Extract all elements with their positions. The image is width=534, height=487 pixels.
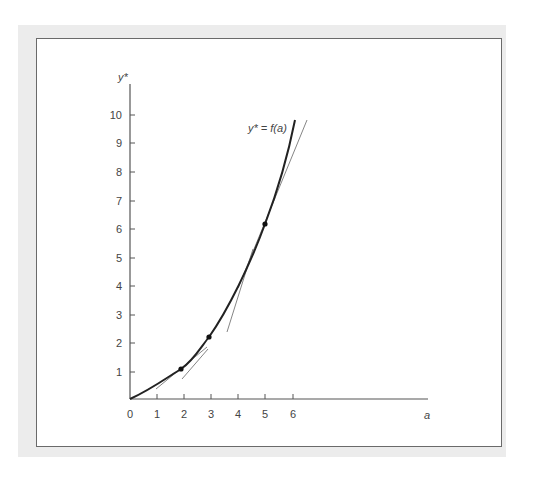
y-axis-label: y* [117, 71, 129, 83]
x-tick-label: 6 [290, 408, 296, 420]
y-tick-label: 6 [116, 223, 122, 235]
x-tick-labels: 0 1 2 3 4 5 6 [127, 408, 296, 420]
data-point [206, 334, 211, 339]
x-tick-label: 5 [262, 408, 268, 420]
y-tick-label: 3 [116, 309, 122, 321]
curve-f-of-a [130, 120, 295, 399]
x-ticks [157, 394, 293, 399]
x-tick-label: 2 [181, 408, 187, 420]
y-tick-label: 2 [116, 337, 122, 349]
marked-points [178, 221, 267, 371]
y-tick-labels: 1 2 3 4 5 6 7 8 9 10 [110, 109, 122, 378]
y-tick-label: 9 [116, 137, 122, 149]
y-ticks [130, 115, 135, 372]
y-tick-label: 10 [110, 109, 122, 121]
tangent-lines [156, 120, 307, 389]
y-tick-label: 5 [116, 252, 122, 264]
chart-canvas: 1 2 3 4 5 6 7 8 9 10 0 1 2 3 4 5 6 y* a [0, 0, 534, 487]
curve-annotation: y* = f(a) [247, 122, 287, 134]
data-point [178, 366, 183, 371]
y-tick-label: 7 [116, 195, 122, 207]
x-tick-label: 3 [208, 408, 214, 420]
y-tick-label: 4 [116, 280, 122, 292]
y-tick-label: 1 [116, 366, 122, 378]
x-axis-label: a [424, 409, 430, 421]
x-tick-label: 4 [235, 408, 241, 420]
x-tick-label: 0 [127, 408, 133, 420]
y-tick-label: 8 [116, 166, 122, 178]
x-tick-label: 1 [154, 408, 160, 420]
data-point [262, 221, 267, 226]
